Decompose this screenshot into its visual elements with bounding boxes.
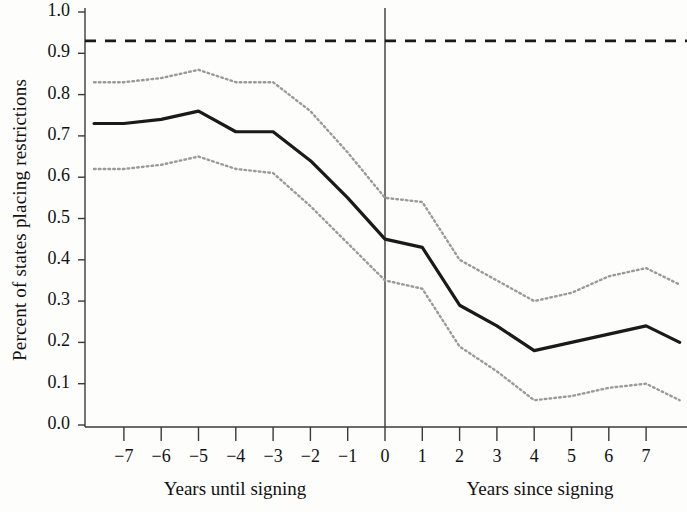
x-tick-label: 1: [408, 446, 436, 467]
y-tick-label: 0.8: [24, 83, 70, 104]
y-tick-label: 0.1: [24, 372, 70, 393]
x-axis-caption-right: Years since signing: [400, 478, 680, 500]
lower-confidence-line: [94, 157, 680, 401]
x-tick-label: 4: [520, 446, 548, 467]
x-axis-ticks: [124, 427, 646, 441]
x-tick-label: −4: [222, 446, 250, 467]
x-tick-label: −5: [185, 446, 213, 467]
y-tick-label: 0.2: [24, 330, 70, 351]
chart-canvas: [0, 0, 687, 512]
point-estimate-line: [94, 111, 680, 351]
x-axis-caption-left: Years until signing: [95, 478, 375, 500]
y-tick-label: 0.6: [24, 165, 70, 186]
x-tick-label: −3: [259, 446, 287, 467]
y-tick-label: 0.0: [24, 413, 70, 434]
x-tick-label: −1: [334, 446, 362, 467]
x-tick-label: 0: [371, 446, 399, 467]
upper-confidence-line: [94, 70, 680, 301]
x-tick-label: 3: [483, 446, 511, 467]
y-axis-ticks: [78, 12, 85, 425]
x-tick-label: −6: [147, 446, 175, 467]
x-tick-label: 6: [595, 446, 623, 467]
y-tick-label: 1.0: [24, 0, 70, 21]
x-tick-label: 7: [632, 446, 660, 467]
y-tick-label: 0.3: [24, 289, 70, 310]
axes: [85, 8, 687, 427]
y-tick-label: 0.5: [24, 207, 70, 228]
y-tick-label: 0.7: [24, 124, 70, 145]
x-tick-label: −2: [296, 446, 324, 467]
x-tick-label: −7: [110, 446, 138, 467]
chart-figure: Percent of states placing restrictions 0…: [0, 0, 687, 512]
x-tick-label: 5: [558, 446, 586, 467]
y-tick-label: 0.9: [24, 41, 70, 62]
y-tick-label: 0.4: [24, 248, 70, 269]
x-tick-label: 2: [446, 446, 474, 467]
